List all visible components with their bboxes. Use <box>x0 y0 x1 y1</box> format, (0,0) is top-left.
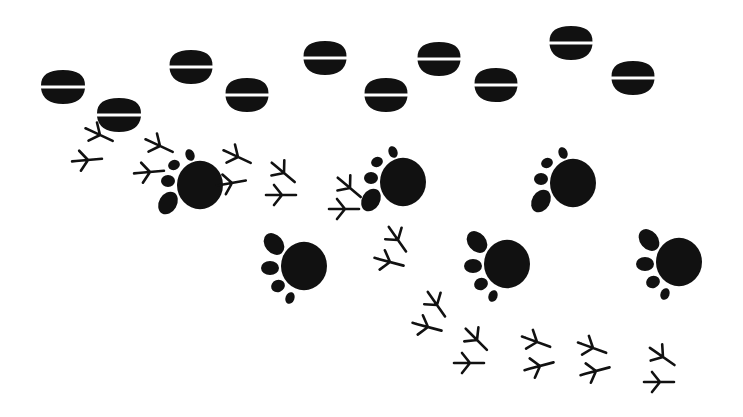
animal-tracks-illustration <box>0 0 743 417</box>
